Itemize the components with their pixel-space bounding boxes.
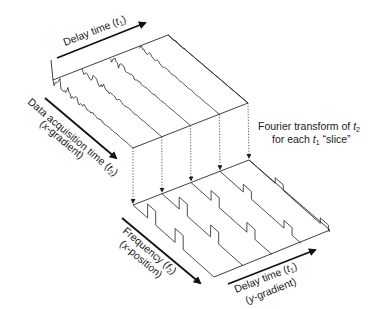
fid-signal-slice xyxy=(139,46,219,114)
spectrum-slice xyxy=(220,171,301,243)
projection-arrow xyxy=(191,126,192,181)
projection-arrow xyxy=(248,103,249,158)
projection-arrows xyxy=(133,103,249,203)
fid-signal-slice xyxy=(111,58,191,125)
fourier-transform-label: Fourier transform of t2 xyxy=(258,120,360,133)
acquisition-time-label: Data acquisition time (t2) xyxy=(25,95,121,178)
spectrum-slice xyxy=(191,183,272,255)
upper-plane xyxy=(51,35,248,148)
fourier-transform-diagram: Delay time (t1) Data acquisition time (t… xyxy=(0,0,374,309)
fid-signal-slice xyxy=(168,35,248,103)
upper-plane-left-spike xyxy=(51,60,53,80)
fourier-slice-label: for each t1 “slice” xyxy=(272,133,351,146)
spectrum-slice xyxy=(249,160,330,232)
fid-signal-slice xyxy=(82,69,162,137)
spectrum-slice xyxy=(162,194,243,266)
projection-arrow xyxy=(219,114,220,169)
